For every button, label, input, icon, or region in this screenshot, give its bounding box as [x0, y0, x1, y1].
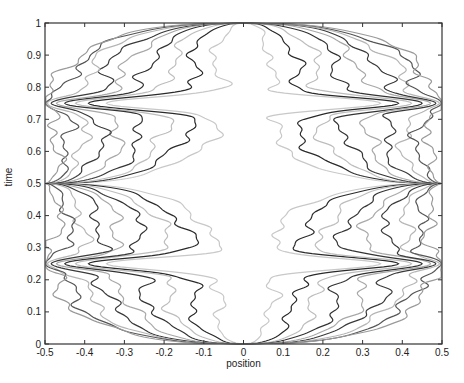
- x-tick-label: -0.3: [116, 347, 134, 358]
- y-tick-label: 0.9: [27, 50, 41, 61]
- y-tick-label: 0.5: [27, 178, 41, 189]
- y-tick-label: 0: [35, 339, 41, 350]
- level-curve-level-3: [244, 184, 442, 345]
- y-tick-label: 1: [35, 18, 41, 29]
- y-tick-label: 0.6: [27, 146, 41, 157]
- x-axis-label: position: [226, 358, 260, 369]
- y-axis-label: time: [3, 167, 14, 186]
- x-tick-label: -0.2: [155, 347, 173, 358]
- x-tick-label: 0.4: [395, 347, 409, 358]
- y-tick-label: 0.4: [27, 210, 41, 221]
- y-tick-label: 0.1: [27, 306, 41, 317]
- x-tick-label: 0: [241, 347, 247, 358]
- level-curve-level-3: [244, 23, 442, 184]
- y-axis-ticks: 00.10.20.30.40.50.60.70.80.91: [27, 18, 442, 350]
- x-tick-label: 0.2: [316, 347, 330, 358]
- level-curves: [46, 23, 441, 344]
- x-tick-label: 0.5: [435, 347, 449, 358]
- x-tick-label: -0.4: [76, 347, 94, 358]
- y-tick-label: 0.7: [27, 114, 41, 125]
- x-tick-label: 0.3: [356, 347, 370, 358]
- y-tick-label: 0.3: [27, 242, 41, 253]
- x-tick-label: -0.1: [195, 347, 213, 358]
- y-tick-label: 0.2: [27, 274, 41, 285]
- y-tick-label: 0.8: [27, 82, 41, 93]
- chart: -0.5-0.4-0.3-0.2-0.100.10.20.30.40.5 00.…: [0, 0, 464, 383]
- x-tick-label: 0.1: [276, 347, 290, 358]
